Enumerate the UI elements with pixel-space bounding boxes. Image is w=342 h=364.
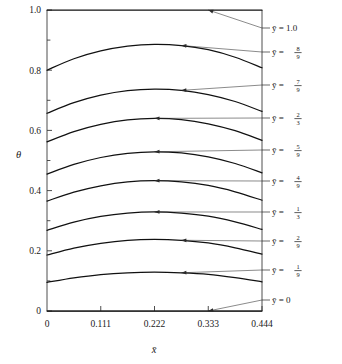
y-tick-label: 0.4 bbox=[29, 186, 41, 196]
y-tick-labels: 00.20.40.60.81.0 bbox=[29, 5, 41, 316]
curve-label-text: ȳ = 1.0 bbox=[272, 23, 298, 33]
fraction-numerator: 8 bbox=[296, 45, 299, 52]
fraction-numerator: 1 bbox=[296, 205, 299, 212]
annotation-leader-line bbox=[181, 85, 262, 90]
curve-label: ȳ =59 bbox=[272, 143, 302, 158]
annotation-leader-line bbox=[181, 46, 262, 52]
curve-label: ȳ =79 bbox=[272, 78, 302, 93]
curve-label-text: ȳ = bbox=[272, 47, 284, 57]
curve-label: ȳ =19 bbox=[272, 263, 302, 278]
annotation-arrowhead bbox=[155, 150, 160, 154]
curve-label-text: ȳ = bbox=[272, 80, 284, 90]
y-tick-label: 0.2 bbox=[29, 246, 41, 256]
annotation-arrowhead bbox=[155, 116, 160, 120]
fraction-numerator: 5 bbox=[296, 143, 299, 150]
annotation-arrowhead bbox=[155, 210, 160, 214]
y-tick-label: 0.6 bbox=[29, 126, 41, 136]
data-curve: ybar = 4/9 bbox=[47, 181, 262, 201]
y-axis-label: θ bbox=[16, 149, 21, 160]
x-tick-labels: 00.1110.2220.3330.444 bbox=[45, 319, 273, 329]
curve-label: ȳ =23 bbox=[272, 111, 302, 126]
curve-group: ybar = 1.0ybar = 8/9ybar = 7/9ybar = 2/3… bbox=[47, 10, 262, 311]
annotation-leader-group bbox=[155, 10, 271, 312]
x-tick-label: 0.444 bbox=[251, 319, 273, 329]
y-tick-label: 1.0 bbox=[29, 5, 41, 15]
y-tick-marks bbox=[47, 10, 52, 311]
figure-chart-theta-vs-xbar: 00.20.40.60.81.0 00.1110.2220.3330.444 y… bbox=[0, 0, 342, 364]
fraction-denominator: 9 bbox=[296, 182, 299, 189]
data-curve: ybar = 5/9 bbox=[47, 152, 262, 174]
fraction-numerator: 4 bbox=[296, 174, 300, 181]
curve-label-text: ȳ = bbox=[272, 265, 284, 275]
curve-label: ȳ =49 bbox=[272, 174, 302, 189]
y-tick-label: 0 bbox=[36, 306, 41, 316]
fraction-denominator: 9 bbox=[296, 242, 299, 249]
curve-label-text: ȳ = bbox=[272, 236, 284, 246]
annotation-arrowhead bbox=[181, 88, 186, 92]
curve-label-text: ȳ = bbox=[272, 176, 284, 186]
fraction-denominator: 9 bbox=[296, 151, 299, 158]
x-axis-label: x̄ bbox=[151, 344, 157, 355]
fraction-numerator: 2 bbox=[296, 234, 299, 241]
data-curve: ybar = 1/3 bbox=[47, 212, 262, 230]
curve-label-text: ȳ = bbox=[272, 113, 284, 123]
x-tick-label: 0 bbox=[45, 319, 50, 329]
x-tick-label: 0.111 bbox=[90, 319, 111, 329]
x-tick-label: 0.222 bbox=[144, 319, 166, 329]
chart-svg: 00.20.40.60.81.0 00.1110.2220.3330.444 y… bbox=[0, 0, 342, 364]
curve-label: ȳ =29 bbox=[272, 234, 302, 249]
curve-label-group: ȳ = 1.0ȳ =89ȳ =79ȳ =23ȳ =59ȳ =49ȳ =13ȳ =… bbox=[272, 23, 302, 305]
fraction-denominator: 9 bbox=[296, 271, 299, 278]
curve-label: ȳ =89 bbox=[272, 45, 302, 60]
data-curve: ybar = 8/9 bbox=[47, 44, 262, 70]
x-tick-label: 0.333 bbox=[198, 319, 220, 329]
fraction-numerator: 1 bbox=[296, 263, 299, 270]
fraction-denominator: 3 bbox=[296, 213, 299, 220]
curve-label: ȳ = 1.0 bbox=[272, 23, 298, 33]
annotation-arrowhead bbox=[155, 179, 160, 183]
curve-label-text: ȳ = bbox=[272, 145, 284, 155]
fraction-numerator: 7 bbox=[296, 78, 300, 85]
annotation-leader-line bbox=[155, 150, 263, 152]
annotation-leader-line bbox=[208, 10, 262, 28]
data-curve: ybar = 2/9 bbox=[47, 239, 262, 255]
data-curve: ybar = 1/9 bbox=[47, 272, 262, 282]
annotation-arrowhead bbox=[181, 271, 186, 275]
x-tick-marks bbox=[101, 306, 262, 311]
annotation-arrowhead bbox=[208, 10, 213, 14]
fraction-numerator: 2 bbox=[296, 111, 299, 118]
annotation-leader-line bbox=[181, 270, 262, 273]
fraction-denominator: 9 bbox=[296, 86, 299, 93]
curve-label-text: ȳ = 0 bbox=[272, 295, 291, 305]
curve-label-text: ȳ = bbox=[272, 207, 284, 217]
data-curve: ybar = 7/9 bbox=[47, 89, 262, 113]
curve-label: ȳ = 0 bbox=[272, 295, 291, 305]
fraction-denominator: 3 bbox=[296, 119, 299, 126]
data-curve: ybar = 2/3 bbox=[47, 118, 262, 141]
fraction-denominator: 9 bbox=[296, 53, 299, 60]
annotation-arrowhead bbox=[181, 238, 186, 242]
y-tick-label: 0.8 bbox=[29, 66, 41, 76]
curve-label: ȳ =13 bbox=[272, 205, 302, 220]
annotation-leader-line bbox=[208, 300, 262, 311]
